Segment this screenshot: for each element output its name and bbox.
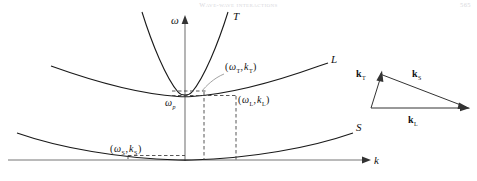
- sound-curve-label: S: [356, 121, 362, 133]
- figure-page: Wave-wave interactions 565: [0, 0, 477, 181]
- sound-point-annotation: ( ω S , k S ): [110, 143, 141, 156]
- transverse-curve-label: T: [233, 10, 240, 22]
- comma: ,: [254, 94, 257, 105]
- transverse-point-leader: [202, 74, 224, 91]
- langmuir-branch-tail: [319, 63, 328, 66]
- k-L-vector-label: k L: [408, 114, 418, 127]
- wavevector-triangle-diagram: k T k S k L: [356, 68, 470, 127]
- omega-symbol: ω: [229, 61, 236, 72]
- k-axis-arrowhead: [362, 157, 371, 164]
- omega-symbol: ω: [114, 143, 121, 154]
- omega-p-label: ω p: [165, 97, 176, 110]
- paren-close: ): [253, 61, 256, 73]
- paren-close: ): [266, 94, 269, 106]
- paren-close: ): [138, 143, 141, 155]
- k-subscript: L: [414, 121, 418, 127]
- comma: ,: [241, 61, 244, 72]
- omega-symbol: ω: [242, 94, 249, 105]
- k-T-vector-label: k T: [356, 68, 366, 81]
- k-subscript: S: [418, 75, 421, 81]
- omega-p-subscript: p: [172, 104, 176, 110]
- omega-p-symbol: ω: [165, 97, 172, 108]
- omega-axis-label: ω: [171, 14, 179, 26]
- k-axis-label: k: [374, 154, 380, 166]
- k-subscript: T: [362, 75, 366, 81]
- langmuir-point-annotation: ( ω L , k L ): [238, 94, 269, 107]
- dispersion-figure: T L S ω k ω p ( ω T , k T ) ( ω L , k L: [0, 0, 477, 181]
- langmuir-curve-label: L: [330, 53, 337, 65]
- k-subscript: S: [134, 150, 137, 156]
- k-S-vector-shaft: [380, 74, 466, 107]
- omega-subscript: S: [122, 150, 125, 156]
- omega-axis-arrowhead: [182, 15, 189, 24]
- k-T-vector-arrowhead: [376, 71, 383, 83]
- transverse-point-annotation: ( ω T , k T ): [225, 61, 256, 74]
- k-S-vector-arrowhead: [458, 103, 471, 110]
- comma: ,: [126, 143, 129, 154]
- k-S-vector-label: k S: [412, 68, 421, 81]
